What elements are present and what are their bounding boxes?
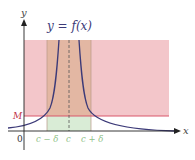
y-axis-label: y: [20, 7, 27, 18]
region-above-M: [24, 40, 169, 116]
y-axis-arrow-icon: [21, 19, 27, 26]
c-minus-delta-label: c − δ: [36, 134, 58, 144]
c-label: c: [66, 134, 71, 144]
c-plus-delta-label: c + δ: [81, 134, 103, 144]
function-title: y = f(x): [46, 19, 92, 33]
limit-diagram: y x y = f(x) M 0 c − δ c c + δ: [0, 0, 195, 160]
x-axis-label: x: [183, 125, 189, 136]
delta-band-below-M: [47, 116, 91, 131]
x-axis-arrow-icon: [174, 128, 181, 134]
origin-label: 0: [17, 134, 23, 144]
M-label: M: [12, 111, 23, 121]
